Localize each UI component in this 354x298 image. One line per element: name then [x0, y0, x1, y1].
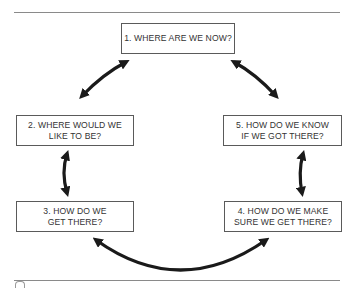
step-box-5-how-do-we-know: 5. HOW DO WE KNOW IF WE GOT THERE? — [223, 115, 342, 146]
bottom-divider — [14, 280, 340, 281]
step-label-2: 2. WHERE WOULD WE LIKE TO BE? — [28, 120, 122, 141]
arrow-2-3 — [64, 154, 67, 193]
step-box-1-where-are-we-now: 1. WHERE ARE WE NOW? — [121, 23, 235, 54]
step-box-3-how-do-we-get-there: 3. HOW DO WE GET THERE? — [16, 201, 134, 232]
step-box-4-how-do-we-make-sure: 4. HOW DO WE MAKE SURE WE GET THERE? — [224, 201, 342, 232]
arrow-3-4 — [96, 240, 266, 270]
arrow-1-5 — [234, 62, 276, 96]
step-label-1: 1. WHERE ARE WE NOW? — [124, 33, 232, 44]
step-label-4: 4. HOW DO WE MAKE SURE WE GET THERE? — [234, 206, 332, 227]
arrow-1-2 — [82, 62, 126, 96]
step-label-3: 3. HOW DO WE GET THERE? — [43, 206, 106, 227]
step-label-5: 5. HOW DO WE KNOW IF WE GOT THERE? — [236, 120, 329, 141]
step-box-2-where-would-we-like-to-be: 2. WHERE WOULD WE LIKE TO BE? — [16, 115, 134, 146]
cropped-caption-icon — [15, 281, 25, 288]
arrow-5-4 — [300, 154, 303, 193]
